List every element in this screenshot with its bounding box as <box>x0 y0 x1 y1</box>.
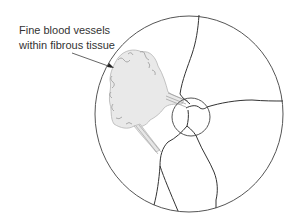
optic-disc <box>172 98 210 136</box>
annotation-line-1: Fine blood vessels <box>19 23 115 38</box>
annotation-pointer <box>72 53 114 68</box>
fibrous-tissue-region <box>109 50 188 154</box>
annotation-label: Fine blood vessels within fibrous tissue <box>19 23 115 53</box>
retina-diagram: Fine blood vessels within fibrous tissue <box>0 0 301 224</box>
annotation-line-2: within fibrous tissue <box>19 38 115 53</box>
blood-vessels <box>154 15 283 211</box>
